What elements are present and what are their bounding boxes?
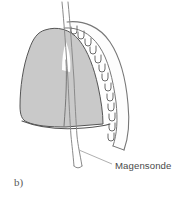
thorax-illustration: Magensonde b)	[0, 0, 176, 199]
figure-panel-b: Magensonde b)	[0, 0, 176, 199]
panel-label: b)	[14, 176, 24, 189]
magensonde-label: Magensonde	[115, 160, 171, 171]
